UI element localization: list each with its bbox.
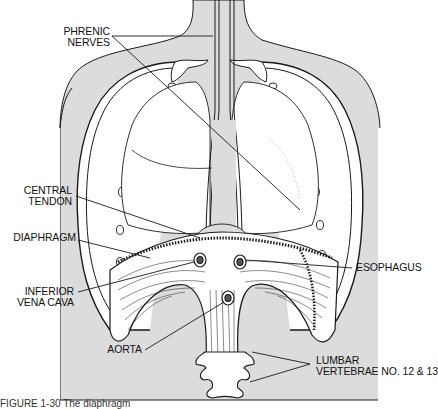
- label-lumbar-vertebrae: LUMBAR VERTEBRAE NO. 12 & 13: [316, 355, 438, 377]
- label-line: ESOPHAGUS: [356, 262, 422, 273]
- label-inferior-vena-cava: INFERIOR VENA CAVA: [10, 286, 74, 308]
- label-esophagus: ESOPHAGUS: [356, 262, 422, 273]
- label-diaphragm: DIAPHRAGM: [8, 232, 76, 243]
- label-line: TENDON: [20, 196, 72, 207]
- label-phrenic-nerves: PHRENIC NERVES: [60, 26, 110, 48]
- figure-caption: FIGURE 1-30 The diaphragm: [0, 398, 130, 409]
- label-line: NERVES: [60, 37, 110, 48]
- label-line: VERTEBRAE NO. 12 & 13: [316, 366, 438, 377]
- label-line: VENA CAVA: [10, 297, 74, 308]
- label-central-tendon: CENTRAL TENDON: [20, 185, 72, 207]
- label-line: AORTA: [100, 344, 142, 355]
- label-aorta: AORTA: [100, 344, 142, 355]
- label-line: DIAPHRAGM: [8, 232, 76, 243]
